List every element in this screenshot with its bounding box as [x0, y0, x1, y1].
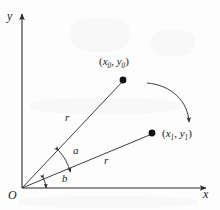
diagram-canvas: [0, 0, 220, 210]
initial-point-dot: [120, 77, 127, 84]
rotation-diagram: y x O (x0, y0) (x1, y1) a b r r: [0, 0, 220, 210]
upper-ray: [22, 81, 123, 188]
lower-ray: [22, 134, 152, 188]
lower-radius-label: r: [104, 155, 108, 166]
initial-point-label: (x0, y0): [99, 56, 129, 70]
angle-b-label: b: [62, 173, 68, 184]
angle-b-arc: [44, 179, 46, 188]
initial-point-label-close: ): [125, 55, 129, 67]
rotation-arrow: [147, 83, 189, 122]
rotated-point-dot: [149, 130, 156, 137]
rotated-point-label: (x1, y1): [162, 128, 192, 142]
angle-a-label: a: [73, 145, 79, 156]
origin-label: O: [8, 189, 17, 201]
x-axis-label: x: [203, 188, 208, 200]
y-axis-label: y: [7, 10, 12, 22]
rotated-point-label-close: ): [188, 127, 192, 139]
upper-radius-label: r: [65, 112, 69, 123]
